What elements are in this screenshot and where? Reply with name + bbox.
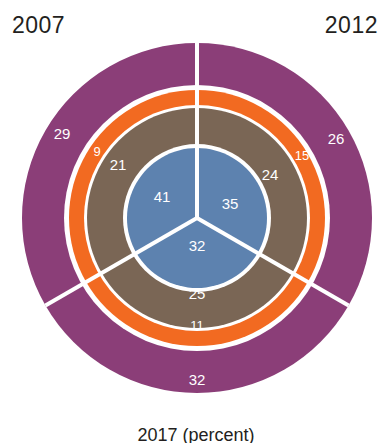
value-brown-bottom: 25 xyxy=(189,285,206,302)
value-inner-left: 41 xyxy=(154,188,171,205)
value-orange-left: 9 xyxy=(93,144,100,159)
value-outer-bottom: 32 xyxy=(189,371,206,388)
year-label-right: 2012 xyxy=(325,12,378,39)
value-outer-right: 26 xyxy=(328,130,345,147)
value-orange-bottom: 11 xyxy=(190,318,204,333)
value-inner-bottom: 32 xyxy=(189,237,206,254)
value-brown-left: 21 xyxy=(110,156,127,173)
value-orange-right: 15 xyxy=(295,148,309,163)
chart-svg: 29 26 32 9 15 11 21 24 25 41 35 32 xyxy=(0,0,392,443)
sunburst-chart: 2007 2012 xyxy=(0,0,392,443)
year-label-left: 2007 xyxy=(12,12,65,39)
chart-caption: 2017 (percent) xyxy=(0,425,392,443)
value-inner-right: 35 xyxy=(222,195,239,212)
value-brown-right: 24 xyxy=(262,166,279,183)
value-outer-left: 29 xyxy=(54,125,71,142)
